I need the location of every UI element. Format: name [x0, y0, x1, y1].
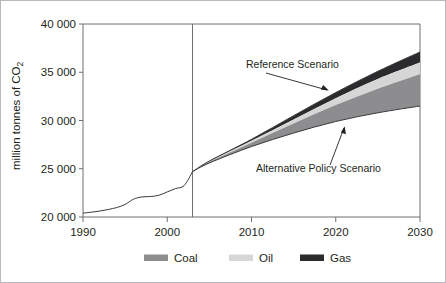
annotation-alternative-policy-scenario-leader: [330, 128, 344, 165]
y-axis-title-subscript: 2: [15, 61, 25, 66]
historical-emissions-line: [83, 172, 193, 213]
x-tick-label-2010: 2010: [239, 226, 265, 238]
chart-canvas: 40 000 35 000 30 000 25 000 20 000 milli…: [0, 0, 446, 283]
annotation-reference-scenario-arrowhead: [321, 85, 329, 91]
annotation-reference-scenario-label: Reference Scenario: [246, 58, 339, 70]
legend-label-oil: Oil: [259, 252, 273, 264]
x-tick-label-2020: 2020: [323, 226, 349, 238]
co2-emissions-area-chart: 40 000 35 000 30 000 25 000 20 000 milli…: [0, 0, 446, 283]
legend-label-gas: Gas: [330, 252, 351, 264]
band-coal-area: [193, 74, 420, 171]
svg-text:million tonnes of CO2: million tonnes of CO2: [10, 61, 25, 170]
annotation-alternative-policy-scenario-arrowhead: [341, 126, 346, 134]
y-tick-label-30000: 30 000: [41, 115, 76, 127]
y-tick-label-25000: 25 000: [41, 163, 76, 175]
legend-item-coal[interactable]: Coal: [144, 252, 198, 264]
legend-swatch-coal: [144, 255, 168, 262]
legend-swatch-gas: [300, 255, 324, 262]
annotation-reference-scenario: Reference Scenario: [246, 58, 339, 91]
legend-label-coal: Coal: [174, 252, 198, 264]
x-tick-label-1990: 1990: [70, 226, 96, 238]
x-tick-label-2030: 2030: [407, 226, 433, 238]
y-axis-title: million tonnes of CO2: [10, 61, 25, 170]
legend-item-oil[interactable]: Oil: [229, 252, 273, 264]
annotation-reference-scenario-leader: [266, 73, 327, 90]
y-tick-label-35000: 35 000: [41, 66, 76, 78]
legend-swatch-oil: [229, 255, 253, 262]
y-tick-label-20000: 20 000: [41, 211, 76, 223]
chart-legend: Coal Oil Gas: [144, 252, 351, 264]
y-axis-title-main: million tonnes of CO: [10, 66, 22, 170]
legend-item-gas[interactable]: Gas: [300, 252, 351, 264]
y-tick-label-40000: 40 000: [41, 18, 76, 30]
x-tick-label-2000: 2000: [154, 226, 180, 238]
annotation-alternative-policy-scenario-label: Alternative Policy Scenario: [256, 162, 381, 174]
